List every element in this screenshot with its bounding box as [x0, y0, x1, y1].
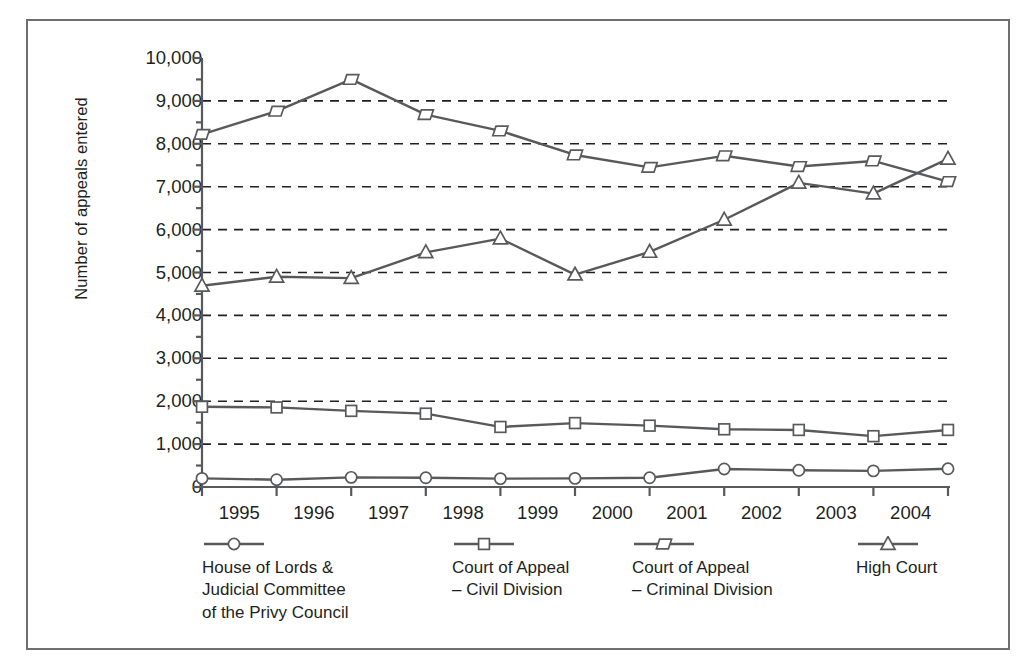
- marker-parallelogram: [269, 106, 284, 116]
- legend-label-line: High Court: [856, 557, 937, 579]
- legend-label-line: – Criminal Division: [632, 579, 773, 601]
- marker-circle: [719, 463, 730, 474]
- marker-square: [495, 422, 506, 433]
- series-1: [197, 401, 954, 441]
- marker-square: [868, 431, 879, 442]
- legend-item-1[interactable]: Court of Appeal– Civil Division: [452, 536, 569, 602]
- legend-label-line: of the Privy Council: [202, 602, 348, 624]
- marker-parallelogram: [940, 177, 955, 187]
- marker-circle: [420, 472, 431, 483]
- marker-triangle: [792, 175, 806, 188]
- marker-parallelogram: [567, 150, 582, 160]
- legend-item-3[interactable]: High Court: [856, 536, 937, 579]
- marker-parallelogram: [418, 110, 433, 120]
- marker-triangle: [941, 151, 955, 164]
- marker-circle: [868, 465, 879, 476]
- marker-circle: [495, 473, 506, 484]
- legend-label-line: – Civil Division: [452, 579, 569, 601]
- legend-label-line: Court of Appeal: [452, 557, 569, 579]
- marker-square: [271, 402, 282, 413]
- legend-swatch-parallelogram: [632, 536, 773, 552]
- marker-square: [420, 408, 431, 419]
- marker-square: [570, 418, 581, 429]
- marker-square: [479, 539, 490, 550]
- marker-square: [943, 425, 954, 436]
- legend-label-line: Court of Appeal: [632, 557, 773, 579]
- legend-label-line: House of Lords &: [202, 557, 348, 579]
- legend-swatch-circle: [202, 536, 348, 552]
- marker-circle: [569, 473, 580, 484]
- marker-square: [346, 405, 357, 416]
- marker-square: [644, 420, 655, 431]
- series-0: [196, 463, 953, 485]
- marker-circle: [196, 473, 207, 484]
- marker-triangle: [493, 231, 507, 244]
- marker-triangle: [717, 212, 731, 225]
- marker-parallelogram: [344, 75, 359, 85]
- marker-parallelogram: [717, 151, 732, 161]
- legend-label-line: Judicial Committee: [202, 579, 348, 601]
- legend-item-2[interactable]: Court of Appeal– Criminal Division: [632, 536, 773, 602]
- marker-parallelogram: [194, 130, 209, 140]
- legend-item-0[interactable]: House of Lords &Judicial Committeeof the…: [202, 536, 348, 624]
- series-2: [194, 75, 955, 187]
- marker-circle: [644, 472, 655, 483]
- legend-swatch-square: [452, 536, 569, 552]
- marker-parallelogram: [791, 162, 806, 172]
- marker-circle: [271, 474, 282, 485]
- marker-circle: [346, 472, 357, 483]
- marker-square: [197, 401, 208, 412]
- marker-parallelogram: [493, 126, 508, 136]
- figure-frame: Number of appeals entered 01,0002,0003,0…: [26, 19, 1010, 650]
- marker-circle: [793, 465, 804, 476]
- marker-parallelogram: [642, 163, 657, 173]
- marker-circle: [228, 538, 239, 549]
- chart-area: Number of appeals entered 01,0002,0003,0…: [28, 21, 1012, 652]
- series-3: [195, 151, 955, 291]
- marker-square: [793, 425, 804, 436]
- marker-square: [719, 424, 730, 435]
- marker-parallelogram: [866, 156, 881, 166]
- series-line: [202, 79, 948, 181]
- marker-parallelogram: [656, 539, 671, 549]
- marker-circle: [942, 463, 953, 474]
- legend-swatch-triangle: [856, 536, 937, 552]
